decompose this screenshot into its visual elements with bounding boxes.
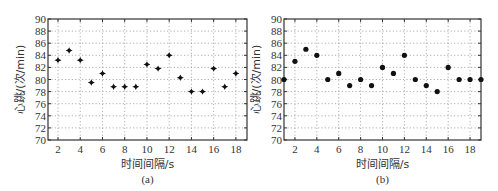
data-point-marker [156, 65, 159, 71]
data-point-marker [281, 77, 286, 82]
x-axis-title: 时间间隔/s [356, 158, 410, 171]
svg-text:88: 88 [271, 25, 283, 37]
svg-text:84: 84 [271, 49, 283, 61]
svg-text:6: 6 [336, 143, 342, 155]
data-point-marker [234, 70, 237, 76]
svg-text:80: 80 [35, 74, 47, 86]
svg-text:76: 76 [35, 98, 47, 110]
svg-text:80: 80 [271, 74, 283, 86]
svg-text:70: 70 [271, 134, 283, 146]
grid-lines [284, 19, 481, 140]
svg-text:8: 8 [122, 143, 128, 155]
svg-text:4: 4 [314, 143, 320, 155]
data-point-marker [179, 74, 182, 80]
svg-text:18: 18 [230, 143, 242, 155]
svg-text:82: 82 [35, 61, 46, 73]
svg-text:74: 74 [271, 110, 283, 122]
x-axis-title: 时间间隔/s [121, 158, 175, 171]
data-point-marker [168, 52, 171, 58]
svg-text:72: 72 [35, 122, 46, 134]
svg-text:74: 74 [35, 110, 47, 122]
svg-text:90: 90 [271, 13, 283, 25]
data-point-marker [112, 84, 115, 90]
scatter-chart-a: 246810121416187072747678808284868890时间间隔… [0, 0, 249, 191]
svg-text:76: 76 [271, 98, 283, 110]
svg-text:4: 4 [77, 143, 83, 155]
data-point-marker [90, 79, 93, 85]
data-point-marker [68, 47, 71, 53]
data-point-marker [446, 65, 451, 70]
data-point-marker [212, 65, 215, 71]
svg-text:2: 2 [55, 143, 61, 155]
data-point-marker [347, 83, 352, 88]
svg-text:72: 72 [271, 122, 282, 134]
data-point-marker [435, 89, 440, 94]
svg-text:16: 16 [443, 143, 455, 155]
y-tick-labels: 7072747678808284868890 [271, 13, 283, 146]
svg-text:16: 16 [208, 143, 220, 155]
chart-panel-b: 246810121416187072747678808284868890时间间隔… [249, 0, 498, 191]
svg-text:14: 14 [421, 143, 433, 155]
svg-text:12: 12 [399, 143, 410, 155]
y-tick-labels: 7072747678808284868890 [35, 13, 47, 146]
data-point-marker [56, 57, 59, 63]
svg-text:82: 82 [271, 61, 282, 73]
data-point-marker [467, 77, 472, 82]
data-point-marker [190, 88, 193, 94]
svg-text:78: 78 [271, 86, 283, 98]
x-tick-labels: 24681012141618 [55, 143, 242, 155]
data-point-marker [369, 83, 374, 88]
panel-caption: (b) [376, 173, 389, 186]
x-tick-labels: 24681012141618 [292, 143, 476, 155]
data-point-marker [145, 61, 148, 67]
data-point-marker [402, 53, 407, 58]
data-point-marker [101, 70, 104, 76]
svg-text:14: 14 [186, 143, 198, 155]
scatter-chart-b: 246810121416187072747678808284868890时间间隔… [249, 0, 498, 191]
data-point-marker [424, 83, 429, 88]
data-point-marker [325, 77, 330, 82]
svg-text:18: 18 [465, 143, 477, 155]
data-point-marker [201, 88, 204, 94]
svg-text:84: 84 [35, 49, 47, 61]
data-point-marker [79, 57, 82, 63]
svg-text:6: 6 [100, 143, 106, 155]
svg-text:12: 12 [164, 143, 175, 155]
data-point-marker [303, 47, 308, 52]
data-point-marker [413, 77, 418, 82]
svg-text:8: 8 [358, 143, 364, 155]
chart-panel-a: 246810121416187072747678808284868890时间间隔… [0, 0, 249, 191]
svg-text:10: 10 [377, 143, 389, 155]
data-point-marker [391, 71, 396, 76]
data-point-marker [292, 59, 297, 64]
data-point-marker [380, 65, 385, 70]
panel-caption: (a) [141, 173, 154, 186]
data-point-marker [336, 71, 341, 76]
data-point-marker [134, 84, 137, 90]
y-axis-title: 心跳/(次/min) [13, 45, 27, 115]
data-point-marker [478, 77, 483, 82]
svg-text:2: 2 [292, 143, 298, 155]
svg-text:86: 86 [271, 37, 283, 49]
data-point-marker [123, 84, 126, 90]
grid-lines [48, 19, 247, 140]
data-point-marker [314, 53, 319, 58]
svg-text:78: 78 [35, 86, 47, 98]
data-point-marker [358, 77, 363, 82]
y-axis-title: 心跳/(次/min) [249, 45, 263, 115]
data-point-marker [457, 77, 462, 82]
svg-text:90: 90 [35, 13, 47, 25]
data-point-marker [223, 84, 226, 90]
svg-text:10: 10 [141, 143, 153, 155]
svg-text:86: 86 [35, 37, 47, 49]
svg-text:88: 88 [35, 25, 47, 37]
svg-text:70: 70 [35, 134, 47, 146]
